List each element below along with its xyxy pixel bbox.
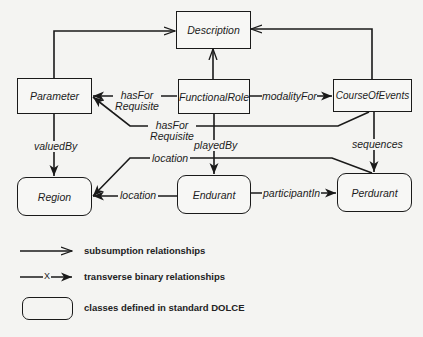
label-participantin: participantIn	[262, 188, 321, 199]
legend-transverse-marker: X	[43, 271, 51, 281]
node-parameter: Parameter	[17, 78, 92, 114]
node-functional-role: FunctionalRole	[178, 79, 250, 114]
label-location-perdurant: location	[150, 153, 190, 164]
connector-lines	[0, 0, 423, 337]
ontology-diagram: Description Parameter FunctionalRole Cou…	[0, 0, 423, 337]
legend-dolce-label: classes defined in standard DOLCE	[84, 302, 245, 313]
label-hasforrequisite-1: hasFor Requisite	[113, 90, 161, 112]
node-region: Region	[17, 177, 92, 216]
legend-subsumption-label: subsumption relationships	[84, 245, 205, 256]
label-line: Requisite	[150, 130, 194, 142]
label-line: Requisite	[115, 100, 159, 112]
legend-dolce-box	[22, 297, 73, 320]
node-description: Description	[176, 11, 251, 49]
node-endurant: Endurant	[177, 175, 251, 214]
node-perdurant: Perdurant	[337, 173, 412, 212]
edge-courseofevents-description	[251, 29, 372, 79]
node-course-of-events: CourseOfEvents	[333, 79, 412, 112]
edge-parameter-description	[54, 31, 175, 78]
label-sequences: sequences	[352, 139, 403, 150]
label-playedby: playedBy	[194, 140, 237, 151]
label-modalityfor: modalityFor	[262, 91, 317, 102]
legend-transverse-label: transverse binary relationships	[84, 271, 225, 282]
label-valuedby: valuedBy	[34, 141, 77, 152]
label-hasforrequisite-2: hasFor Requisite	[148, 120, 196, 142]
label-location-endurant: location	[118, 190, 158, 201]
